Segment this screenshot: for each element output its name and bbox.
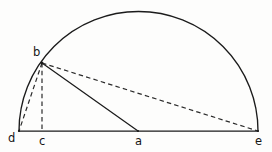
semicircle-arc xyxy=(19,12,258,132)
point-label-a: a xyxy=(135,136,142,148)
point-label-e: e xyxy=(255,136,262,148)
vertex-dot-a xyxy=(137,130,139,132)
segment-b-to-d-dashed xyxy=(19,63,42,131)
vertex-dot-b xyxy=(41,62,44,65)
point-label-b: b xyxy=(33,47,40,59)
point-label-c: c xyxy=(39,136,45,148)
segment-b-to-e-dashed xyxy=(42,63,258,131)
figure-canvas xyxy=(0,0,272,152)
vertex-dot-d xyxy=(18,130,20,132)
segment-b-to-a xyxy=(42,63,138,131)
geometry-figure: b d c a e xyxy=(0,0,272,152)
point-label-d: d xyxy=(8,133,15,145)
vertex-dot-e xyxy=(257,130,259,132)
